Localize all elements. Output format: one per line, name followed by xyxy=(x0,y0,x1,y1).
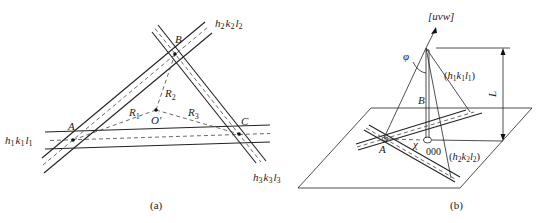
point-a-dot xyxy=(71,138,75,142)
kikuchi-band-h2k2l2 xyxy=(42,22,212,173)
origin-spot xyxy=(424,137,432,143)
label-point-o: O′ xyxy=(151,114,162,126)
kikuchi-band-h1k1l1-3d xyxy=(356,110,482,150)
label-length-l: L xyxy=(486,91,498,98)
label-plane-h2k2l2: (h2k2l2) xyxy=(449,151,481,164)
length-dimension xyxy=(436,48,510,141)
zone-axis-arrow xyxy=(426,27,437,48)
caption-b: (b) xyxy=(450,199,463,212)
kikuchi-diagram-figure: A B C O′ R1 R2 R3 h1k1l1 h2k2l2 h3k3l3 (… xyxy=(0,0,543,223)
label-point-b-3d: B xyxy=(418,94,425,106)
label-point-a-3d: A xyxy=(378,143,386,155)
panel-b: [uvw] φ xyxy=(298,10,532,212)
label-point-c: C xyxy=(241,115,249,127)
panel-a: A B C O′ R1 R2 R3 h1k1l1 h2k2l2 h3k3l3 (… xyxy=(5,17,280,212)
label-origin-000: 000 xyxy=(426,146,441,157)
point-c-dot xyxy=(237,132,241,136)
label-band-h1k1l1: h1k1l1 xyxy=(5,134,32,148)
label-zone-axis: [uvw] xyxy=(428,10,454,22)
label-r2: R2 xyxy=(164,87,176,102)
label-r3: R3 xyxy=(187,106,199,121)
label-r1: R1 xyxy=(128,106,140,121)
kikuchi-band-h1k1l1 xyxy=(45,125,270,149)
point-o-dot xyxy=(154,108,158,112)
label-point-b: B xyxy=(175,33,182,45)
label-phi: φ xyxy=(403,50,409,62)
caption-a: (a) xyxy=(150,199,163,212)
label-point-a: A xyxy=(67,120,75,132)
point-b-dot xyxy=(173,52,177,56)
label-band-h3k3l3: h3k3l3 xyxy=(253,171,280,185)
label-band-h2k2l2: h2k2l2 xyxy=(215,17,242,31)
